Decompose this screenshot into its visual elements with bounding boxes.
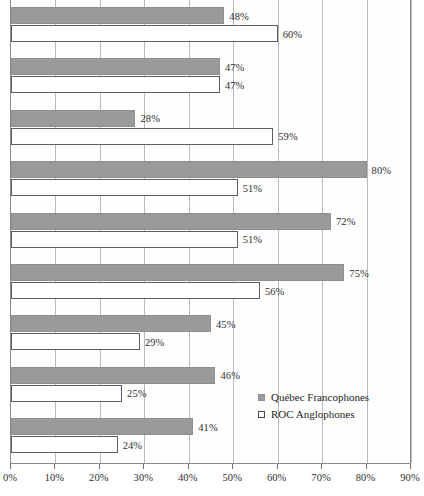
x-axis-tick [54, 464, 55, 469]
bar-value-label: 29% [145, 336, 165, 347]
bar-row: 51% [11, 179, 410, 196]
x-axis-tick [366, 464, 367, 469]
legend-swatch-hollow-icon [258, 411, 265, 418]
x-axis-tick [99, 464, 100, 469]
bar-group: 48%60% [11, 7, 410, 42]
bar-group: 72%51% [11, 213, 410, 248]
bar-row: 60% [11, 25, 410, 42]
bar [11, 128, 273, 145]
legend-label-series-b: ROC Anglophones [271, 407, 354, 422]
bar-group: 75%56% [11, 264, 410, 299]
bar-value-label: 51% [243, 182, 263, 193]
x-axis-tick [232, 464, 233, 469]
bar-value-label: 24% [123, 439, 143, 450]
bar [11, 315, 211, 332]
legend-item-series-a: Québec Francophones [258, 390, 369, 405]
x-axis-tick-label: 80% [356, 472, 376, 483]
x-axis-tick [188, 464, 189, 469]
bar-row: 28% [11, 110, 410, 127]
bar-row: 80% [11, 161, 410, 178]
bar-row: 51% [11, 231, 410, 248]
bar [11, 110, 135, 127]
bar-row: 29% [11, 333, 410, 350]
bar-row: 47% [11, 58, 410, 75]
bar [11, 76, 220, 93]
x-axis-tick-label: 10% [45, 472, 65, 483]
bar-value-label: 47% [225, 61, 245, 72]
bar-row: 56% [11, 282, 410, 299]
bar [11, 282, 260, 299]
x-axis-tick [277, 464, 278, 469]
bar-row: 24% [11, 436, 410, 453]
bar-value-label: 48% [229, 10, 249, 21]
bar-chart: 48%60%47%47%28%59%80%51%72%51%75%56%45%2… [0, 0, 424, 496]
x-axis-tick-label: 70% [311, 472, 331, 483]
x-axis-tick [410, 464, 411, 469]
legend-swatch-filled-icon [258, 394, 265, 401]
bar [11, 333, 140, 350]
legend-label-series-a: Québec Francophones [271, 390, 369, 405]
bar-value-label: 51% [243, 234, 263, 245]
bar [11, 58, 220, 75]
bar [11, 25, 278, 42]
bar-group: 28%59% [11, 110, 410, 145]
bar [11, 161, 367, 178]
bar-row: 48% [11, 7, 410, 24]
bar-value-label: 75% [349, 267, 369, 278]
bar-value-label: 80% [372, 164, 392, 175]
bar-value-label: 45% [216, 318, 236, 329]
bar-value-label: 72% [336, 216, 356, 227]
bar-value-label: 60% [283, 28, 303, 39]
bar [11, 213, 331, 230]
bar-value-label: 25% [127, 388, 147, 399]
bar-value-label: 59% [278, 131, 298, 142]
bar-row: 72% [11, 213, 410, 230]
x-axis-tick [10, 464, 11, 469]
bar-row: 59% [11, 128, 410, 145]
x-axis-tick-label: 90% [400, 472, 420, 483]
bar [11, 179, 238, 196]
bar-value-label: 46% [220, 370, 240, 381]
bar-row: 45% [11, 315, 410, 332]
x-axis-tick [143, 464, 144, 469]
x-axis-tick [321, 464, 322, 469]
legend-item-series-b: ROC Anglophones [258, 407, 369, 422]
bar-row: 47% [11, 76, 410, 93]
bar-row: 46% [11, 367, 410, 384]
x-axis-tick-label: 60% [267, 472, 287, 483]
bar [11, 436, 118, 453]
x-axis-tick-label: 40% [178, 472, 198, 483]
x-axis-tick-label: 20% [89, 472, 109, 483]
bar-value-label: 28% [140, 113, 160, 124]
bar [11, 264, 344, 281]
bar-group: 45%29% [11, 315, 410, 350]
bar-row: 75% [11, 264, 410, 281]
x-axis-tick-label: 50% [222, 472, 242, 483]
bar [11, 367, 215, 384]
gridline [411, 0, 412, 463]
bar-value-label: 41% [198, 421, 218, 432]
bar-group: 80%51% [11, 161, 410, 196]
chart-legend: Québec Francophones ROC Anglophones [258, 390, 369, 424]
bar-value-label: 56% [265, 285, 285, 296]
bar [11, 231, 238, 248]
bar [11, 418, 193, 435]
bar [11, 385, 122, 402]
bar-value-label: 47% [225, 79, 245, 90]
x-axis-tick-label: 0% [3, 472, 17, 483]
bar-group: 47%47% [11, 58, 410, 93]
x-axis: 0%10%20%30%40%50%60%70%80%90% [10, 464, 411, 496]
x-axis-tick-label: 30% [134, 472, 154, 483]
bar [11, 7, 224, 24]
